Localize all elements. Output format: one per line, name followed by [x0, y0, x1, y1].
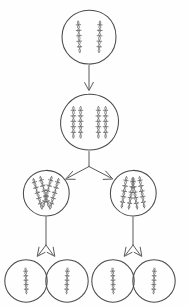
stage-gamete-4	[133, 260, 175, 302]
arrow-division-2-left	[37, 217, 55, 256]
chromosome-duplicated	[71, 107, 83, 139]
chromosome-group	[76, 21, 103, 53]
stage-daughter-cell-left	[23, 170, 69, 216]
chromosome	[76, 21, 82, 53]
chromosome-duplicated	[96, 107, 108, 139]
cell-membrane-outline	[110, 170, 156, 216]
meiosis-diagram-svg	[0, 0, 188, 307]
arrow-division-2-right	[124, 217, 142, 256]
stage-gamete-1	[5, 260, 47, 302]
chromosome	[24, 268, 29, 294]
chromosome	[111, 268, 116, 294]
chromosome-crossed	[130, 176, 147, 209]
chromosome-group	[31, 176, 61, 210]
cell-membrane-outline	[61, 94, 119, 150]
arrow-replication	[85, 66, 94, 91]
stage-gamete-2	[46, 260, 88, 302]
chromosome	[97, 21, 103, 53]
arrow-division-1	[66, 152, 113, 180]
diagram-canvas	[0, 0, 188, 307]
stage-daughter-cell-right	[110, 170, 156, 216]
cell-membrane-outline	[62, 10, 116, 64]
chromosome	[65, 268, 70, 294]
stage-replicated-cell	[61, 94, 119, 150]
stage-parent-cell	[62, 10, 116, 64]
stage-gamete-3	[92, 260, 134, 302]
chromosome	[152, 268, 157, 294]
chromosome-group	[119, 176, 147, 209]
chromosome-group	[71, 107, 108, 139]
